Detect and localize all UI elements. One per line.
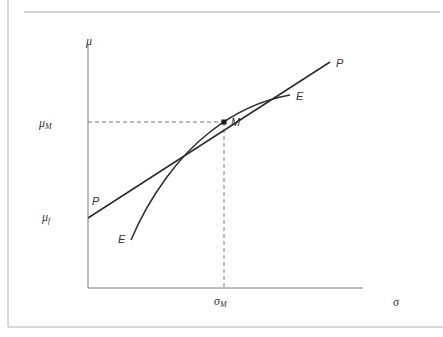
line-p-label-start: P	[92, 196, 99, 207]
sigma-m-subscript: M	[220, 300, 227, 309]
sigma-m-tick-label: σM	[214, 295, 227, 309]
curve-e-label-start: E	[118, 234, 125, 245]
cml-diagram: μ σ μM μf σM P P E E M	[0, 0, 443, 337]
curve-e-label-end: E	[296, 91, 303, 102]
diagram-canvas	[0, 0, 443, 337]
point-m-label: M	[231, 117, 240, 128]
line-p-label-end: P	[336, 58, 343, 69]
y-axis-label: μ	[86, 35, 92, 47]
capital-market-line-p	[88, 62, 330, 218]
mu-f-tick-label: μf	[42, 211, 50, 225]
mu-f-subscript: f	[48, 216, 50, 225]
efficient-frontier-curve-e	[131, 95, 290, 240]
market-portfolio-point	[222, 120, 227, 125]
mu-m-subscript: M	[45, 122, 52, 131]
x-axis-label: σ	[393, 296, 399, 308]
mu-m-tick-label: μM	[39, 117, 52, 131]
